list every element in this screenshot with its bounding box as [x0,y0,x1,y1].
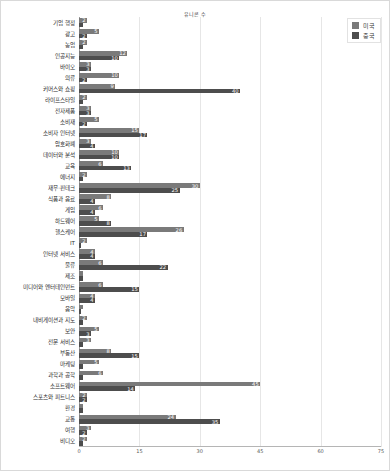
category-label: 모바일 [60,295,75,301]
legend-item[interactable]: 중국 [352,32,375,39]
bar-value-label: 14 [127,386,134,391]
bar-segment[interactable]: 10 [79,155,119,160]
category-label: 하드웨어 [55,218,75,224]
bar-segment[interactable]: 4 [79,298,95,303]
category-label: 비디오 [60,438,75,444]
bar-segment[interactable] [79,408,83,413]
category-label: 광고 [65,31,75,37]
bar-value-label: 25 [172,188,179,193]
plot-area: 기업 행정2광고52농업2인공지능1210바이오33의류102커머스와 쇼핑94… [79,17,381,447]
bar-group: 2 [79,94,381,105]
bar-segment[interactable] [79,364,83,369]
category-label: 제조 [65,273,75,279]
bar-value-label: 45 [252,382,259,387]
category-label: 식품과 음료 [48,196,75,202]
bar-segment[interactable]: 15 [79,287,139,292]
bar-group: 52 [79,116,381,127]
category-label: 전문 서비스 [48,339,75,345]
bar-segment[interactable] [79,243,81,248]
bar-segment[interactable] [79,45,83,50]
bar-segment[interactable]: 15 [79,353,139,358]
bar-group: 2 [79,238,381,249]
bar-value-label: 4 [90,254,93,259]
bar-row: IT2 [79,238,381,249]
bar-value-label: 2 [82,122,85,127]
bar-segment[interactable]: 17 [79,133,147,138]
bar-segment[interactable] [79,320,83,325]
bar-segment[interactable] [79,276,83,281]
bar-row: 인터넷 서비스44 [79,249,381,260]
bar-segment[interactable]: 4 [79,199,95,204]
bar-value-label: 40 [232,89,239,94]
bar-segment[interactable] [79,309,81,314]
bar-value-label: 4 [90,199,93,204]
bar-group: 5 [79,359,381,370]
bar-group: 2 [79,17,381,28]
bar-segment[interactable]: 3 [79,67,91,72]
bar-segment[interactable]: 2 [79,34,87,39]
x-tick-label: 45 [257,448,263,454]
bar-rows: 기업 행정2광고52농업2인공지능1210바이오33의류102커머스와 쇼핑94… [79,17,381,447]
bar-segment[interactable]: 14 [79,386,135,391]
bar-segment[interactable]: 2 [79,122,87,127]
bar-segment[interactable]: 13 [79,166,131,171]
chart-legend: 미국중국 [347,18,381,43]
bar-segment[interactable] [79,23,83,28]
bar-segment[interactable]: 40 [79,89,240,94]
x-tick-label: 75 [378,448,384,454]
bar-segment[interactable] [79,342,83,347]
bar-row: 라이프스타일2 [79,94,381,105]
bar-group: 53 [79,326,381,337]
category-label: 교통 [65,416,75,422]
bar-segment[interactable]: 3 [79,331,91,336]
bar-value-label: 10 [111,155,118,160]
bar-group: 44 [79,293,381,304]
bar-row: 과학과 공학6 [79,370,381,381]
category-label: IT [70,240,75,246]
bar-segment[interactable] [79,375,83,380]
bar-row: 인공지능1210 [79,50,381,61]
bar-value-label: 5 [94,360,97,365]
bar-group: 3 [79,337,381,348]
bar-value-label: 6 [98,371,101,376]
bar-segment[interactable]: 4 [79,144,95,149]
bar-segment[interactable]: 4 [79,254,95,259]
bar-segment[interactable]: 25 [79,188,180,193]
category-label: 부동산 [60,350,75,356]
bar-value-label: 2 [82,397,85,402]
legend-item[interactable]: 미국 [352,22,375,29]
bar-row: 교육613 [79,160,381,171]
bar-segment[interactable]: 17 [79,232,147,237]
category-label: 보안 [65,328,75,334]
bar-row: 전문 서비스3 [79,337,381,348]
bar-value-label: 6 [98,205,101,210]
category-label: 커머스와 쇼핑 [43,86,75,92]
bar-row: 물류622 [79,260,381,271]
bar-segment[interactable] [79,100,83,105]
bar-row: 소비자 인터넷1517 [79,127,381,138]
bar-segment[interactable]: 2 [79,430,87,435]
bar-segment[interactable]: 3 [79,111,91,116]
bar-group: 2 [79,315,381,326]
category-label: 암호화폐 [55,141,75,147]
bar-segment[interactable]: 22 [79,265,168,270]
bar-group: 6 [79,370,381,381]
bar-segment[interactable]: 8 [79,221,111,226]
bar-row: 바이오33 [79,61,381,72]
bar-segment[interactable]: 2 [79,397,87,402]
bar-group [79,403,381,414]
bar-row: 광고52 [79,28,381,39]
category-label: 농업 [65,42,75,48]
category-label: 게임 [65,207,75,213]
bar-segment[interactable]: 2 [79,78,87,83]
bar-segment[interactable]: 10 [79,56,119,61]
bar-segment[interactable]: 4 [79,210,95,215]
bar-value-label: 2 [82,238,85,243]
bar-value-label: 17 [139,232,146,237]
bar-row: 소프트웨어4514 [79,381,381,392]
category-label: 전자제품 [55,108,75,114]
bar-segment[interactable]: 35 [79,419,220,424]
bar-value-label: 4 [90,210,93,215]
category-label: 과학과 공학 [48,372,75,378]
bar-segment[interactable] [79,177,83,182]
